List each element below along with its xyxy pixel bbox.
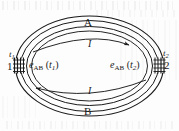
current-label-top: I: [88, 39, 91, 49]
junction-right-temperature-subscript: 2: [166, 52, 169, 59]
emf-left-close-paren: ): [55, 59, 58, 70]
junction-left-node-number: 1: [7, 61, 13, 72]
thermocouple-figure: A B I I eAB (t1) eAB (t2) t1 1 t2 2: [0, 0, 179, 131]
emf-left-subscript: AB: [33, 64, 43, 72]
junction-left-temperature-subscript: 1: [12, 53, 15, 60]
junction-right-temperature-label: t2: [163, 49, 169, 58]
emf-left-label: eAB (t1): [29, 60, 59, 70]
junction-left-temperature-label: t1: [9, 50, 15, 59]
junction-right-node-number: 2: [164, 60, 170, 71]
current-arrow-top: [33, 39, 129, 52]
emf-right-subscript: AB: [114, 64, 124, 72]
emf-right-label: eAB (t2): [110, 60, 140, 70]
emf-right-close-paren: ): [136, 59, 139, 70]
current-label-bottom: I: [88, 86, 91, 96]
conductor-b-label: B: [84, 106, 91, 117]
conductor-a-label: A: [84, 17, 92, 28]
